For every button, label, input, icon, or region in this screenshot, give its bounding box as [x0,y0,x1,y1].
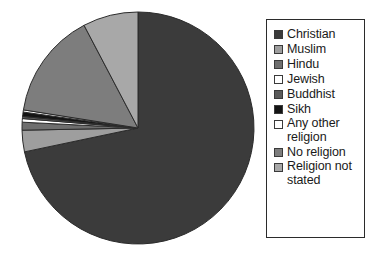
legend-swatch-religion-not-stated [274,163,283,172]
legend-label-buddhist: Buddhist [287,87,335,101]
legend-label-any-other-religion: Any other religion [287,117,359,144]
legend-swatch-buddhist [274,90,283,99]
legend-swatch-any-other-religion [274,120,283,129]
pie-svg [0,0,262,261]
pie-chart-figure: Christian Muslim Hindu Jewish Buddhist S… [0,0,383,261]
legend-swatch-sikh [274,105,283,114]
legend-label-hindu: Hindu [287,57,319,71]
pie-plot-area [0,0,262,261]
legend-item-jewish[interactable]: Jewish [274,72,359,86]
legend-label-jewish: Jewish [287,72,325,86]
legend-label-muslim: Muslim [287,42,326,56]
legend-swatch-christian [274,30,283,39]
legend-label-sikh: Sikh [287,102,311,116]
legend-item-muslim[interactable]: Muslim [274,42,359,56]
legend-item-religion-not-stated[interactable]: Religion not stated [274,160,359,187]
legend-item-buddhist[interactable]: Buddhist [274,87,359,101]
legend-item-hindu[interactable]: Hindu [274,57,359,71]
legend-swatch-muslim [274,45,283,54]
legend-item-sikh[interactable]: Sikh [274,102,359,116]
chart-legend: Christian Muslim Hindu Jewish Buddhist S… [266,19,365,238]
legend-label-christian: Christian [287,27,335,41]
legend-item-any-other-religion[interactable]: Any other religion [274,117,359,144]
legend-item-christian[interactable]: Christian [274,27,359,41]
legend-swatch-jewish [274,75,283,84]
legend-label-no-religion: No religion [287,145,346,159]
legend-swatch-hindu [274,60,283,69]
legend-item-no-religion[interactable]: No religion [274,145,359,159]
legend-swatch-no-religion [274,148,283,157]
pie-slice-group [22,12,254,244]
legend-label-religion-not-stated: Religion not stated [287,160,359,187]
